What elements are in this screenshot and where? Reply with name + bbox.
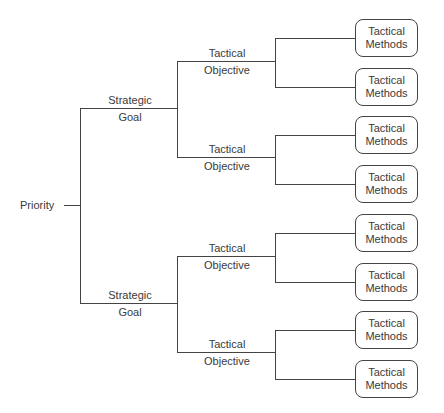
tactical-methods-box: Tactical Methods [355, 311, 418, 349]
box-line1: Tactical [368, 269, 405, 282]
box-line2: Methods [365, 38, 407, 51]
tactical-methods-box: Tactical Methods [355, 263, 418, 301]
connector [80, 303, 177, 304]
connector [80, 108, 177, 109]
connector [177, 256, 275, 257]
connector [275, 233, 276, 283]
tactical-methods-box: Tactical Methods [355, 116, 418, 154]
box-line1: Tactical [368, 74, 405, 87]
connector [64, 205, 81, 206]
connector [275, 233, 356, 234]
connector [80, 108, 81, 304]
strategic-goal-2-line2: Goal [100, 306, 160, 319]
connector [275, 38, 356, 39]
connector [275, 184, 356, 185]
box-line2: Methods [365, 282, 407, 295]
box-line1: Tactical [368, 25, 405, 38]
box-line1: Tactical [368, 171, 405, 184]
box-line1: Tactical [368, 122, 405, 135]
priority-label: Priority [20, 199, 54, 212]
connector [275, 87, 356, 88]
connector [177, 61, 275, 62]
tactical-objective-4-line1: Tactical [195, 338, 259, 351]
box-line2: Methods [365, 330, 407, 343]
strategic-goal-1-line1: Strategic [100, 94, 160, 107]
tactical-methods-box: Tactical Methods [355, 214, 418, 252]
tactical-methods-box: Tactical Methods [355, 360, 418, 398]
tactical-objective-1-line1: Tactical [195, 47, 259, 60]
connector [275, 330, 276, 380]
tactical-methods-box: Tactical Methods [355, 165, 418, 203]
tactical-objective-3-line2: Objective [195, 259, 259, 272]
box-line2: Methods [365, 87, 407, 100]
box-line2: Methods [365, 379, 407, 392]
box-line1: Tactical [368, 220, 405, 233]
connector [177, 256, 178, 353]
connector [275, 330, 356, 331]
tactical-methods-box: Tactical Methods [355, 19, 418, 57]
tactical-methods-box: Tactical Methods [355, 68, 418, 106]
connector [275, 38, 276, 88]
tactical-objective-2-line1: Tactical [195, 143, 259, 156]
connector [177, 157, 275, 158]
connector [177, 61, 178, 158]
connector [275, 135, 356, 136]
tactical-objective-1-line2: Objective [195, 64, 259, 77]
tactical-objective-4-line2: Objective [195, 355, 259, 368]
box-line1: Tactical [368, 366, 405, 379]
box-line2: Methods [365, 233, 407, 246]
box-line2: Methods [365, 184, 407, 197]
strategic-goal-1-line2: Goal [100, 111, 160, 124]
strategic-goal-2-line1: Strategic [100, 289, 160, 302]
connector [275, 379, 356, 380]
box-line2: Methods [365, 135, 407, 148]
box-line1: Tactical [368, 317, 405, 330]
tactical-objective-2-line2: Objective [195, 160, 259, 173]
tactical-objective-3-line1: Tactical [195, 242, 259, 255]
connector [275, 135, 276, 185]
connector [177, 352, 275, 353]
connector [275, 282, 356, 283]
